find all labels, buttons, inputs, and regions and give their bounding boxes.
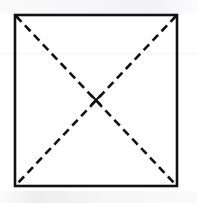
figure-canvas [0, 0, 197, 203]
square-diagonals-diagram [0, 0, 197, 203]
center-cross-mark [92, 96, 101, 105]
